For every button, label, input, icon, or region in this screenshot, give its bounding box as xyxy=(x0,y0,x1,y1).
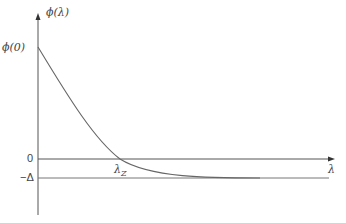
lambda-z-sub: Z xyxy=(121,169,127,178)
delta-label: −Δ xyxy=(20,171,34,183)
phi-curve xyxy=(38,47,260,178)
phi0-label: ϕ(0) xyxy=(2,41,25,54)
x-axis-arrow-icon xyxy=(328,157,335,162)
y-axis-label: ϕ(λ) xyxy=(46,6,69,19)
lambda-z-main: λ xyxy=(114,163,121,176)
y-axis-arrow-icon xyxy=(36,13,41,20)
lambda-z-label: λZ xyxy=(114,163,127,178)
zero-label: 0 xyxy=(27,152,33,164)
plot-svg xyxy=(0,0,346,223)
x-axis-label: λ xyxy=(328,163,335,176)
diagram: ϕ(λ) ϕ(0) 0 −Δ λZ λ xyxy=(0,0,346,223)
